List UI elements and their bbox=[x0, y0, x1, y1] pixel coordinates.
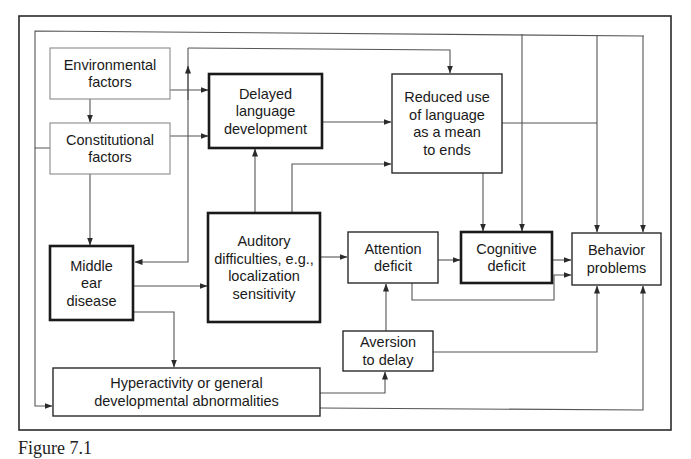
node-label-line: to ends bbox=[423, 142, 471, 158]
node-label-line: difficulties, e.g., bbox=[214, 251, 314, 267]
node-label-line: localization bbox=[228, 268, 300, 284]
node-label-line: to delay bbox=[363, 352, 415, 368]
node-label-line: Constitutional bbox=[66, 132, 154, 148]
node-environmental: Environmentalfactors bbox=[50, 48, 170, 99]
node-label-line: developmental abnormalities bbox=[94, 393, 279, 409]
node-middle-ear: Middleeardisease bbox=[50, 246, 133, 320]
edge-middle-ear-hyperactivity bbox=[133, 312, 174, 367]
node-auditory: Auditorydifficulties, e.g.,localizations… bbox=[208, 213, 320, 322]
node-label-line: development bbox=[224, 121, 307, 137]
node-label-line: Environmental bbox=[64, 57, 157, 73]
node-hyperactivity: Hyperactivity or generaldevelopmental ab… bbox=[53, 368, 320, 416]
node-delayed-language: Delayedlanguagedevelopment bbox=[209, 74, 322, 148]
node-behavior: Behaviorproblems bbox=[572, 233, 661, 285]
node-label-line: Aversion bbox=[360, 334, 416, 350]
node-label-line: factors bbox=[88, 74, 132, 90]
node-label-line: deficit bbox=[488, 258, 526, 274]
figure-caption: Figure 7.1 bbox=[18, 438, 92, 459]
node-label-line: Auditory bbox=[237, 233, 291, 249]
node-reduced-use: Reduced useof languageas a meanto ends bbox=[392, 74, 502, 173]
node-label-line: as a mean bbox=[413, 124, 481, 140]
node-label-line: deficit bbox=[374, 258, 412, 274]
node-constitutional: Constitutionalfactors bbox=[50, 123, 170, 174]
edge-hyperactivity-aversion bbox=[320, 372, 385, 393]
node-aversion: Aversionto delay bbox=[343, 331, 433, 371]
node-label-line: Hyperactivity or general bbox=[110, 375, 262, 391]
edge-aversion-behavior bbox=[433, 286, 597, 352]
node-label-line: Attention bbox=[364, 241, 421, 257]
node-label-line: disease bbox=[67, 293, 117, 309]
node-label-line: factors bbox=[88, 149, 132, 165]
edge-auditory-reduced-use bbox=[292, 164, 391, 213]
node-label-line: sensitivity bbox=[233, 286, 297, 302]
node-label-line: problems bbox=[587, 260, 647, 276]
node-label-line: Behavior bbox=[588, 242, 645, 258]
node-label-line: language bbox=[236, 103, 296, 119]
node-label-line: of language bbox=[409, 107, 485, 123]
node-label-line: Cognitive bbox=[476, 241, 536, 257]
edge-down-to-reduced bbox=[188, 48, 450, 73]
node-label-line: Reduced use bbox=[404, 89, 489, 105]
node-cognitive: Cognitivedeficit bbox=[461, 232, 552, 283]
node-label-line: Delayed bbox=[239, 86, 292, 102]
node-label-line: ear bbox=[81, 275, 102, 291]
node-label-line: Middle bbox=[70, 258, 113, 274]
node-attention: Attentiondeficit bbox=[348, 232, 438, 283]
